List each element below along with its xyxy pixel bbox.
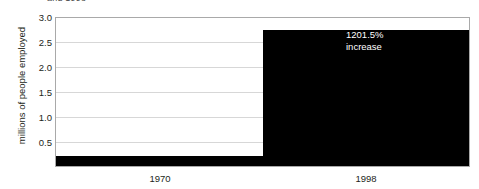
- y-tick-label: 1.0: [18, 112, 52, 123]
- y-tick-label: 0.5: [18, 137, 52, 148]
- y-tick-label: 1.5: [18, 87, 52, 98]
- y-tick-label: 2.0: [18, 62, 52, 73]
- plot-area: 1201.5% increase: [55, 17, 470, 167]
- y-tick-label: 2.5: [18, 37, 52, 48]
- bar-annotation-increase: 1201.5% increase: [346, 29, 384, 52]
- x-tick-label-1970: 1970: [149, 173, 170, 184]
- y-axis-tick-labels: 3.0 2.5 2.0 1.5 1.0 0.5: [12, 0, 52, 189]
- x-tick-label-1998: 1998: [355, 173, 376, 184]
- y-tick-label: 3.0: [18, 12, 52, 23]
- clipped-title-fragment: and 1998: [47, 0, 86, 2]
- bar-1970: [56, 156, 263, 167]
